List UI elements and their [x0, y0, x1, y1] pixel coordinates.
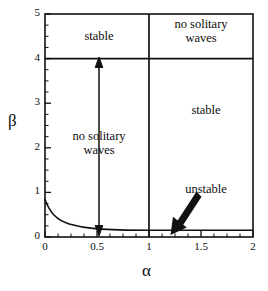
- no-solitary-top-right-line2: waves: [185, 31, 216, 45]
- xtick-label-1: 1: [137, 241, 161, 253]
- ytick-label-4: 4: [24, 52, 40, 64]
- xtick-label-1-5: 1.5: [189, 241, 213, 253]
- ytick-label-0: 0: [24, 230, 40, 242]
- region-label-stable-top-left: stable: [65, 30, 133, 43]
- ytick-label-2: 2: [24, 141, 40, 153]
- xtick-label-0-5: 0.5: [85, 241, 109, 253]
- no-solitary-left-line2: waves: [83, 143, 114, 157]
- x-axis-title: α: [142, 262, 151, 280]
- region-label-stable-right: stable: [176, 104, 236, 117]
- ytick-label-5: 5: [24, 7, 40, 19]
- region-label-no-solitary-waves-left: no solitary waves: [55, 129, 143, 158]
- region-label-unstable: unstable: [171, 183, 241, 196]
- no-solitary-top-right-line1: no solitary: [174, 17, 227, 31]
- region-label-no-solitary-waves-top-right: no solitary waves: [157, 17, 245, 46]
- y-axis-title: β: [8, 112, 17, 130]
- no-solitary-left-line1: no solitary: [72, 129, 125, 143]
- ytick-label-1: 1: [24, 185, 40, 197]
- phase-diagram-figure: 5 4 3 2 1 0 0 0.5 1 1.5 2 β α stable no …: [0, 0, 268, 291]
- ytick-label-3: 3: [24, 96, 40, 108]
- xtick-label-2: 2: [241, 241, 265, 253]
- xtick-label-0: 0: [33, 241, 57, 253]
